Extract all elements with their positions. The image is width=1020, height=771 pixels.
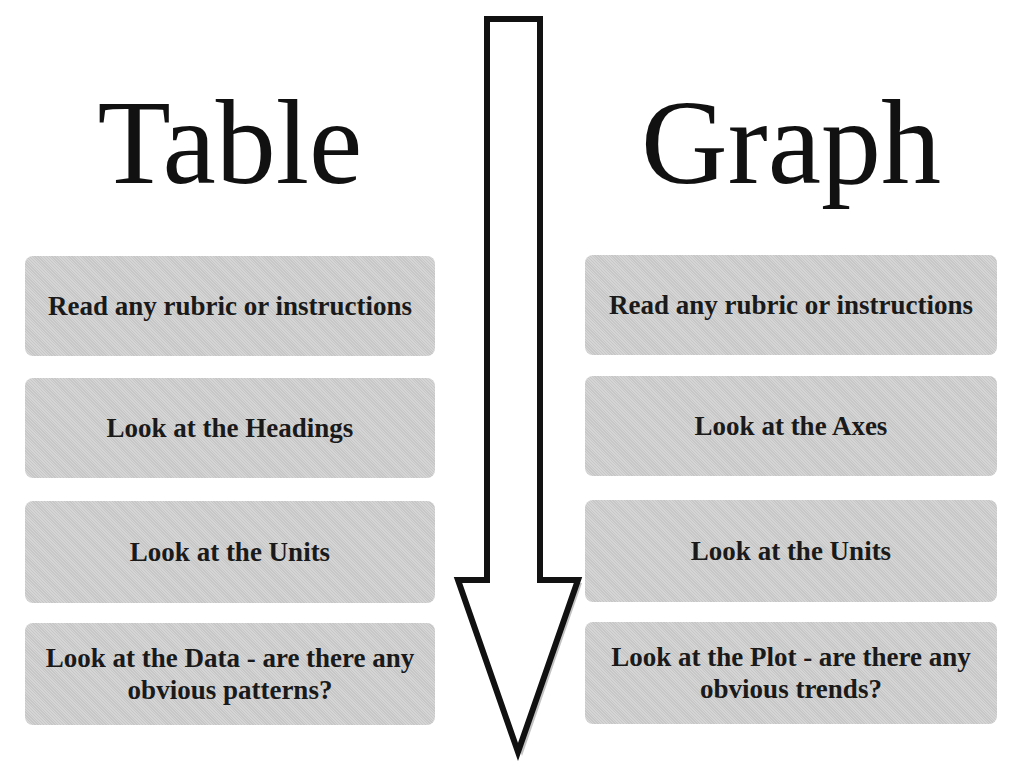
graph-step-2: Look at the Axes bbox=[585, 376, 997, 476]
graph-step-4-text: Look at the Plot - are there any obvious… bbox=[585, 641, 997, 705]
table-step-3-text: Look at the Units bbox=[118, 536, 342, 568]
table-step-4: Look at the Data - are there any obvious… bbox=[25, 623, 435, 725]
table-step-3: Look at the Units bbox=[25, 501, 435, 603]
graph-step-3: Look at the Units bbox=[585, 500, 997, 602]
table-step-2-text: Look at the Headings bbox=[95, 412, 366, 444]
graph-step-1: Read any rubric or instructions bbox=[585, 255, 997, 355]
table-heading: Table bbox=[25, 78, 435, 208]
table-step-4-text: Look at the Data - are there any obvious… bbox=[25, 642, 435, 706]
graph-step-4: Look at the Plot - are there any obvious… bbox=[585, 622, 997, 724]
table-step-2: Look at the Headings bbox=[25, 378, 435, 478]
graph-step-1-text: Read any rubric or instructions bbox=[597, 289, 985, 321]
table-step-1: Read any rubric or instructions bbox=[25, 256, 435, 356]
graph-step-2-text: Look at the Axes bbox=[683, 410, 900, 442]
table-step-1-text: Read any rubric or instructions bbox=[36, 290, 424, 322]
graph-step-3-text: Look at the Units bbox=[679, 535, 903, 567]
graph-heading: Graph bbox=[585, 78, 997, 208]
